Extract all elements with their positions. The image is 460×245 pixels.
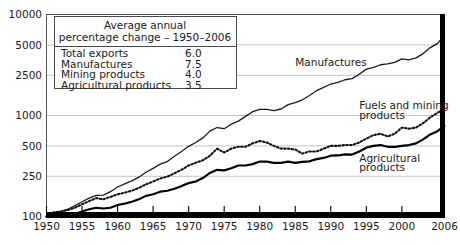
x-tick-label-1975: 1975 (211, 220, 238, 232)
x-tick-label-1950: 1950 (33, 220, 60, 232)
x-tick-label-1985: 1985 (282, 220, 309, 232)
x-tick-label-1980: 1980 (246, 220, 273, 232)
x-tick-label-1990: 1990 (317, 220, 344, 232)
y-tick-label-2500: 2500 (15, 69, 42, 81)
y-tick-label-5000: 5000 (15, 39, 42, 51)
legend-panel: Average annual percentage change – 1950–… (55, 17, 237, 91)
legend-row-value-3: 3.5 (185, 79, 202, 91)
x-tick-label-2000: 2000 (388, 220, 415, 232)
x-tick-label-1965: 1965 (140, 220, 167, 232)
x-tick-label-1955: 1955 (69, 220, 96, 232)
export-volume-index-chart: 10000500025001000500250100 1950195519601… (0, 0, 460, 245)
legend-title-line1: Average annual (104, 19, 186, 31)
annotation-manufactures-0: Manufactures (295, 56, 367, 68)
x-tick-label-1995: 1995 (353, 220, 380, 232)
annotation-products-4: products (359, 161, 405, 173)
x-axis-bar (46, 212, 445, 218)
x-tick-label-1960: 1960 (104, 220, 131, 232)
y-tick-label-500: 500 (22, 140, 42, 152)
x-tick-label-2006: 2006 (431, 220, 458, 232)
x-tick-label-1970: 1970 (175, 220, 202, 232)
right-axis-bar (440, 14, 445, 218)
chart-container: 10000500025001000500250100 1950195519601… (0, 0, 460, 245)
y-tick-label-1000: 1000 (15, 109, 42, 121)
annotation-products-2: products (359, 109, 405, 121)
y-tick-label-250: 250 (22, 170, 42, 182)
legend-title-line2: percentage change – 1950–2006 (59, 31, 232, 43)
y-tick-label-10000: 10000 (9, 8, 42, 20)
legend-row-label-3: Agricultural products (61, 79, 171, 91)
